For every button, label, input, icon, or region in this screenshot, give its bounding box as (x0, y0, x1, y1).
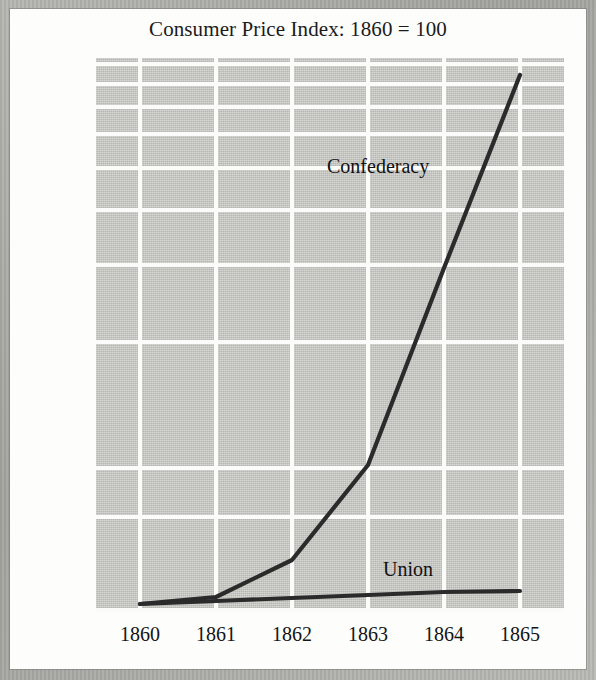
series-lines (0, 0, 596, 680)
series-label-confederacy: Confederacy (327, 155, 429, 178)
series-label-union: Union (383, 558, 433, 581)
